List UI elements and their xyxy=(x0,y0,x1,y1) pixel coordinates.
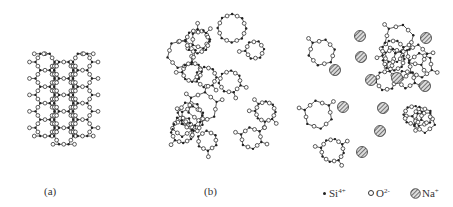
panel-a-label: (a) xyxy=(44,185,56,197)
na-hatched-circle-icon xyxy=(410,188,421,199)
legend-si: Si4+ xyxy=(323,187,346,199)
legend-na: Na+ xyxy=(410,187,439,199)
silica-structure-diagram xyxy=(0,0,453,207)
o-circle-icon xyxy=(368,190,374,196)
panel-b-label: (b) xyxy=(204,185,217,197)
panel-c-soda-glass-network xyxy=(297,23,439,168)
panel-b-glass-network xyxy=(166,13,278,159)
legend-o: O2- xyxy=(368,187,390,199)
si-dot-icon xyxy=(323,192,326,195)
panel-a-crystal-network xyxy=(28,52,100,146)
